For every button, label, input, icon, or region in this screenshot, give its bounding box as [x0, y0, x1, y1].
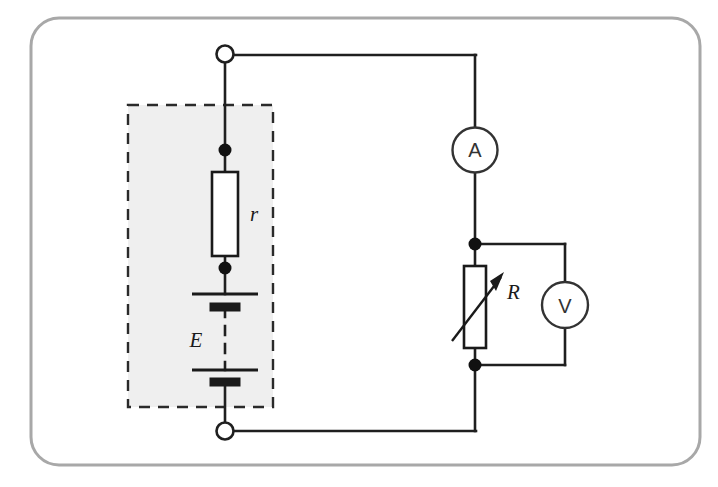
node-dot-R-top — [469, 238, 482, 251]
ammeter-label: A — [468, 139, 482, 161]
battery-E-label: E — [189, 328, 203, 352]
emf-source-region — [128, 105, 273, 407]
variable-resistor-R-label: R — [506, 280, 520, 304]
variable-resistor-R-body — [464, 266, 486, 348]
figure-canvas: r E A R V — [0, 0, 718, 487]
voltmeter-label: V — [558, 295, 572, 317]
node-dot-below-r — [219, 262, 232, 275]
ammeter[interactable]: A — [453, 128, 498, 173]
terminal-bottom-open-circle[interactable] — [217, 423, 234, 440]
resistor-r-body — [212, 172, 238, 256]
node-dot-above-r — [219, 144, 232, 157]
emf-source-region-fill — [128, 105, 273, 407]
battery-cell2-short-plate — [210, 378, 240, 386]
node-dot-R-bottom — [469, 359, 482, 372]
voltmeter[interactable]: V — [542, 282, 588, 328]
circuit-diagram: r E A R V — [0, 0, 718, 487]
battery-cell1-short-plate — [210, 303, 240, 311]
resistor-r-label: r — [250, 202, 259, 226]
terminal-top-open-circle[interactable] — [217, 46, 234, 63]
